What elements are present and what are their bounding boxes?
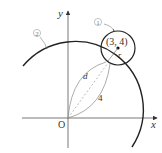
curve-d-label: d (83, 71, 88, 81)
center-coordinate-label: (3, 4) (106, 36, 128, 48)
coordinate-diagram: 1 2 y x O (3, 4) r d 4 (0, 0, 162, 153)
y-axis-label: y (57, 7, 63, 19)
x-axis-label: x (150, 118, 156, 130)
origin-label: O (58, 119, 65, 130)
curve-4-label: 4 (98, 93, 103, 103)
marker-1-label: 1 (96, 19, 100, 27)
marker-1-pointer (104, 24, 114, 31)
circle-2-arc (23, 41, 143, 147)
marker-2-label: 2 (35, 30, 39, 38)
